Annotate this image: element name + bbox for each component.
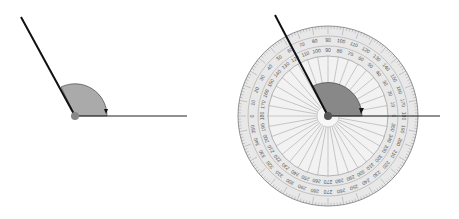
svg-text:90: 90 xyxy=(325,37,331,43)
svg-text:90: 90 xyxy=(325,47,331,53)
svg-text:0: 0 xyxy=(249,114,255,117)
left-angle-diagram xyxy=(21,17,187,120)
svg-text:270: 270 xyxy=(324,189,333,195)
angle-arc-fill xyxy=(61,84,107,116)
svg-text:180: 180 xyxy=(259,112,265,121)
svg-text:270: 270 xyxy=(324,179,333,185)
slanted-ray xyxy=(21,17,75,116)
angle-figure: 0180101702016030150401405013060120701108… xyxy=(0,0,459,219)
protractor-center xyxy=(324,112,332,120)
vertex-dot xyxy=(71,112,79,120)
protractor-diagram: 0180101702016030150401405013060120701108… xyxy=(238,15,440,206)
